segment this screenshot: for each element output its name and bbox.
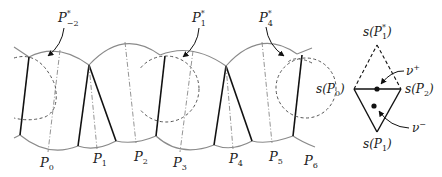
solid-lower-triangle	[354, 89, 401, 132]
label-s-p0: s(P0)	[316, 82, 345, 98]
nu-minus-point	[371, 103, 376, 108]
label-p1: P1	[92, 151, 107, 168]
label-p3: P3	[172, 155, 187, 172]
solid-edges	[20, 55, 302, 146]
dashed-circles	[14, 56, 336, 122]
label-nu-minus: ν−	[412, 120, 426, 135]
label-nu-plus: ν+	[406, 63, 420, 78]
label-p-star-4: P*4	[258, 9, 273, 28]
label-p0: P0	[39, 155, 54, 172]
label-s-p1-star: s(P*1)	[363, 23, 392, 41]
bottom-arcs	[14, 135, 315, 150]
label-p-star-minus-2: P*−2	[57, 9, 79, 28]
simplex-diagram: s(P*1) s(P0) s(P2) s(P1) ν+ ν−	[316, 23, 434, 153]
label-p4: P4	[228, 151, 243, 168]
label-p6: P6	[303, 153, 318, 170]
dashed-upper-triangle	[354, 45, 401, 89]
label-s-p2: s(P2)	[405, 82, 434, 98]
strip-diagram: P*−2 P*1 P*4 P0 P1 P2 P3 P4 P5 P6	[14, 9, 336, 172]
label-s-p1: s(P1)	[363, 137, 392, 153]
label-p2: P2	[133, 149, 148, 166]
nu-plus-point	[374, 86, 379, 91]
diagram: P*−2 P*1 P*4 P0 P1 P2 P3 P4 P5 P6	[0, 0, 442, 177]
label-p5: P5	[268, 149, 283, 166]
label-p-star-1: P*1	[191, 9, 206, 28]
